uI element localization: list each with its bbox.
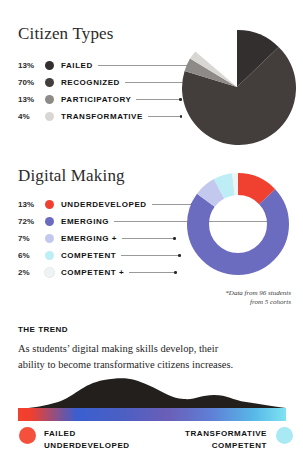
legend-color-swatch [45,234,54,243]
legend-percent: 70% [18,78,45,87]
legend-percent: 13% [18,95,45,104]
list-item[interactable]: 13% PARTICIPATORY [18,91,203,108]
legend-label: PARTICIPATORY [61,95,131,104]
legend-label: FAILED [61,61,93,70]
legend-percent: 6% [18,251,45,260]
trend-gradient-scale [18,408,286,421]
legend-color-swatch [45,268,54,277]
legend-label: EMERGING + [61,234,117,243]
trend-heading: THE TREND [18,325,68,334]
footnote-line-2: from 5 cohorts [151,298,291,307]
legend-label: RECOGNIZED [61,78,120,87]
leader-dot [178,254,181,257]
scale-label-right-line-2: COMPETENT [185,440,267,452]
legend-percent: 7% [18,234,45,243]
digital-making-donut-chart [182,168,294,284]
legend-color-swatch [45,78,54,87]
citizen-types-heading: Citizen Types [18,24,114,44]
data-footnote: *Data from 96 students from 5 cohorts [151,289,291,308]
legend-label: COMPETENT + [61,268,124,277]
leader-dot [173,237,176,240]
legend-label: UNDERDEVELOPED [61,200,147,209]
scale-label-left: FAILED UNDERDEVELOPED [44,428,130,451]
leader-line [121,255,179,256]
trend-curve [18,378,286,411]
footnote-line-1: *Data from 96 students [151,289,291,298]
legend-color-swatch [45,112,54,121]
citizen-types-pie-chart [178,28,296,150]
leader-line [136,99,180,100]
scale-label-left-line-1: FAILED [44,428,130,440]
legend-percent: 4% [18,112,45,121]
leader-line [122,238,174,239]
scale-label-left-line-2: UNDERDEVELOPED [44,440,130,452]
leader-line [148,116,181,117]
scale-dot-failed [19,427,36,444]
trend-body-line-2: ability to become transformative citizen… [18,357,288,373]
list-item[interactable]: 4% TRANSFORMATIVE [18,108,203,125]
scale-label-right: TRANSFORMATIVE COMPETENT [185,428,267,451]
infographic-page: HIGH SCHOOL STUDENTS Citizen Types 13% F… [0,0,303,465]
page-title: HIGH SCHOOL STUDENTS [0,0,303,6]
legend-label: EMERGING [61,217,109,226]
citizen-types-legend: 13% FAILED 70% RECOGNIZED 13% PARTICIPAT… [18,57,203,125]
trend-description: As students’ digital making skills devel… [18,341,288,373]
list-item[interactable]: 13% FAILED [18,57,203,74]
legend-percent: 2% [18,268,45,277]
scale-label-right-line-1: TRANSFORMATIVE [185,428,267,440]
leader-line [129,272,175,273]
legend-percent: 13% [18,200,45,209]
legend-label: TRANSFORMATIVE [61,112,143,121]
legend-color-swatch [45,61,54,70]
trend-body-line-1: As students’ digital making skills devel… [18,341,288,357]
list-item[interactable]: 70% RECOGNIZED [18,74,203,91]
digital-making-heading: Digital Making [18,166,125,186]
legend-percent: 13% [18,61,45,70]
leader-dot [174,271,177,274]
scale-dot-competent [276,427,293,444]
legend-percent: 72% [18,217,45,226]
legend-color-swatch [45,251,54,260]
legend-label: COMPETENT [61,251,116,260]
legend-color-swatch [45,200,54,209]
legend-color-swatch [45,95,54,104]
legend-color-swatch [45,217,54,226]
